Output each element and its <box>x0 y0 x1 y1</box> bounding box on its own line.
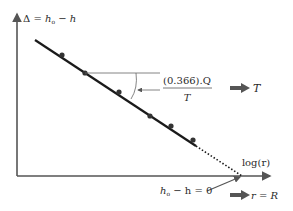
regression-line <box>35 40 196 146</box>
result-T: T <box>253 82 262 95</box>
data-points <box>59 52 195 142</box>
result-arrow-T <box>230 83 250 93</box>
y-axis-label: Δ = ho − h <box>23 13 76 25</box>
x-axis-label: log(r) <box>242 157 270 168</box>
drawdown-diagram: (0.366).Q T T Δ = ho − h log(r) ho − h =… <box>0 0 293 211</box>
result-R: r = R <box>251 190 279 201</box>
extrapolation-line <box>196 146 242 176</box>
result-arrow-R <box>230 190 250 200</box>
slope-numerator: (0.366).Q <box>163 75 211 86</box>
diagram-canvas: (0.366).Q T T Δ = ho − h log(r) ho − h =… <box>0 0 293 211</box>
slope-angle-arc <box>131 73 136 99</box>
intercept-label: ho − h = 0 <box>160 185 212 197</box>
slope-denominator: T <box>184 92 192 103</box>
